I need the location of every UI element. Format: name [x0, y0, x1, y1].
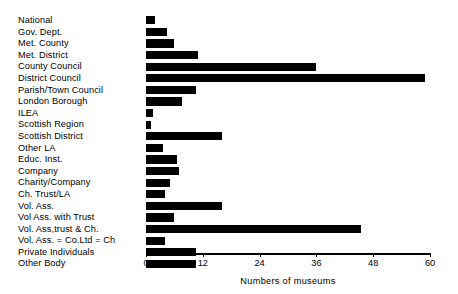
bar-row: [146, 15, 430, 27]
bar: [146, 16, 155, 24]
bar: [146, 121, 151, 129]
bar: [146, 51, 198, 59]
x-axis-tick-label: 0: [143, 258, 148, 269]
museums-bar-chart: NationalGov. Dept.Met. CountyMet. Distri…: [0, 0, 458, 294]
bar: [146, 237, 165, 245]
category-label: Gov. Dept.: [18, 27, 144, 39]
bar: [146, 39, 174, 47]
bar: [146, 190, 165, 198]
bar-row: [146, 224, 430, 236]
x-axis-tick: [146, 253, 147, 257]
category-label: Scottish Region: [18, 119, 144, 131]
bar-row: [146, 235, 430, 247]
bar-row: [146, 212, 430, 224]
category-label: County Council: [18, 61, 144, 73]
category-label: ILEA: [18, 108, 144, 120]
x-axis-tick: [373, 253, 374, 257]
bar: [146, 74, 425, 82]
bar: [146, 213, 174, 221]
bar-row: [146, 73, 430, 85]
bar: [146, 202, 222, 210]
x-axis-tick-label: 36: [311, 258, 321, 269]
bar: [146, 167, 179, 175]
bar: [146, 97, 182, 105]
x-axis-tick-label: 60: [425, 258, 435, 269]
bar-row: [146, 177, 430, 189]
category-label: Scottish District: [18, 131, 144, 143]
category-label: Company: [18, 166, 144, 178]
category-label: District Council: [18, 73, 144, 85]
bar-row: [146, 131, 430, 143]
bar: [146, 144, 163, 152]
category-label: Private Individuals: [18, 247, 144, 259]
x-axis-tick-label: 24: [254, 258, 264, 269]
bar-row: [146, 50, 430, 62]
category-label: Vol Ass. with Trust: [18, 212, 144, 224]
bar-row: [146, 96, 430, 108]
bar: [146, 179, 170, 187]
bar-row: [146, 27, 430, 39]
bar-row: [146, 38, 430, 50]
category-label: National: [18, 15, 144, 27]
category-label: Met. County: [18, 38, 144, 50]
bar: [146, 260, 196, 268]
category-label: Other LA: [18, 143, 144, 155]
bar-row: [146, 166, 430, 178]
bar-row: [146, 143, 430, 155]
bar-row: [146, 154, 430, 166]
x-axis-tick-label: 12: [198, 258, 208, 269]
plot-area: [146, 15, 430, 253]
bar-row: [146, 119, 430, 131]
bar: [146, 28, 167, 36]
category-label: Educ. Inst.: [18, 154, 144, 166]
x-axis-tick: [430, 253, 431, 257]
category-label: Parish/Town Council: [18, 85, 144, 97]
bar: [146, 155, 177, 163]
x-axis-tick: [203, 253, 204, 257]
category-label-column: NationalGov. Dept.Met. CountyMet. Distri…: [18, 15, 144, 270]
x-axis-tick-label: 48: [368, 258, 378, 269]
x-axis-line: [146, 253, 430, 255]
x-axis-tick: [260, 253, 261, 257]
category-label: London Borough: [18, 96, 144, 108]
bar: [146, 109, 153, 117]
category-label: Charity/Company: [18, 177, 144, 189]
x-axis-tick: [316, 253, 317, 257]
x-axis-title: Numbers of museums: [146, 276, 430, 286]
category-label: Vol. Ass.: [18, 201, 144, 213]
bar: [146, 86, 196, 94]
category-label: Ch. Trust/LA: [18, 189, 144, 201]
bar-row: [146, 258, 430, 270]
category-label: Vol. Ass. = Co.Ltd = Ch: [18, 235, 144, 247]
bar-row: [146, 61, 430, 73]
bar-row: [146, 201, 430, 213]
category-label: Met. District: [18, 50, 144, 62]
bar-row: [146, 189, 430, 201]
category-label: Vol. Ass,trust & Ch.: [18, 224, 144, 236]
bar-row: [146, 108, 430, 120]
category-label: Other Body: [18, 258, 144, 270]
bar-row: [146, 85, 430, 97]
bar: [146, 225, 361, 233]
bar: [146, 132, 222, 140]
bar: [146, 63, 316, 71]
